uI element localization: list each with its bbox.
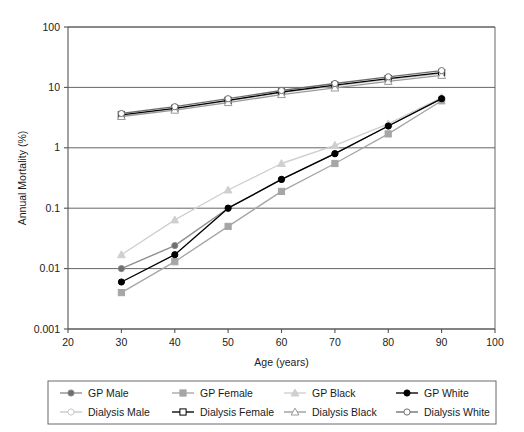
data-point-marker <box>278 87 284 93</box>
chart-figure: 0.0010.010.11101002030405060708090100Age… <box>0 0 524 432</box>
legend-label: GP Black <box>312 387 356 399</box>
x-tick-label-70: 70 <box>329 336 341 348</box>
legend-label: Dialysis Black <box>312 406 378 418</box>
data-point-marker <box>385 123 391 129</box>
y-tick-label-1: 1 <box>54 141 60 153</box>
legend-label: Dialysis Female <box>200 406 274 418</box>
legend-label: Dialysis White <box>424 406 490 418</box>
x-tick-label-60: 60 <box>276 336 288 348</box>
legend-label: GP Male <box>88 387 129 399</box>
x-axis-title: Age (years) <box>254 356 308 368</box>
data-point-marker <box>439 96 445 102</box>
data-point-marker <box>68 409 74 415</box>
data-point-marker <box>225 223 231 229</box>
data-point-marker <box>385 74 391 80</box>
y-tick-label-100: 100 <box>42 21 60 33</box>
mortality-log-line-chart: 0.0010.010.11101002030405060708090100Age… <box>0 0 524 432</box>
data-point-marker <box>278 188 284 194</box>
data-point-marker <box>172 252 178 258</box>
data-point-marker <box>332 151 338 157</box>
x-tick-label-40: 40 <box>169 336 181 348</box>
data-point-marker <box>404 390 410 396</box>
x-tick-label-100: 100 <box>486 336 504 348</box>
data-point-marker <box>172 104 178 110</box>
x-tick-label-20: 20 <box>62 336 74 348</box>
data-point-marker <box>332 80 338 86</box>
legend-label: GP White <box>424 387 469 399</box>
legend: GP MaleGP FemaleGP BlackGP WhiteDialysis… <box>48 381 496 424</box>
data-point-marker <box>439 68 445 74</box>
data-point-marker <box>68 390 74 396</box>
y-axis-title: Annual Mortality (%) <box>16 131 28 226</box>
y-tick-label-10: 10 <box>48 81 60 93</box>
data-point-marker <box>180 409 186 415</box>
data-point-marker <box>332 160 338 166</box>
data-point-marker <box>404 409 410 415</box>
data-point-marker <box>180 390 186 396</box>
x-tick-label-80: 80 <box>382 336 394 348</box>
data-point-marker <box>225 205 231 211</box>
data-point-marker <box>118 279 124 285</box>
data-point-marker <box>172 243 178 249</box>
data-point-marker <box>278 176 284 182</box>
data-point-marker <box>118 266 124 272</box>
data-point-marker <box>385 131 391 137</box>
x-tick-label-90: 90 <box>436 336 448 348</box>
data-point-marker <box>118 110 124 116</box>
legend-label: GP Female <box>200 387 253 399</box>
data-point-marker <box>225 96 231 102</box>
data-point-marker <box>172 259 178 265</box>
y-tick-label-0.1: 0.1 <box>45 202 60 214</box>
legend-label: Dialysis Male <box>88 406 150 418</box>
data-point-marker <box>118 290 124 296</box>
x-tick-label-50: 50 <box>222 336 234 348</box>
y-tick-label-0.001: 0.001 <box>34 323 60 335</box>
x-tick-label-30: 30 <box>116 336 128 348</box>
y-tick-label-0.01: 0.01 <box>40 262 61 274</box>
